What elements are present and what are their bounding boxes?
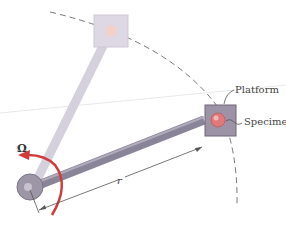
radius-label: r	[117, 175, 123, 186]
dimension-arrow-right-icon	[195, 147, 202, 152]
omega-label: Ω	[17, 142, 27, 155]
specimen	[211, 113, 225, 127]
platform-leader	[224, 90, 234, 104]
specimen-label: Specimen	[244, 116, 286, 127]
specimen-faded	[105, 25, 117, 37]
pivot-center	[24, 183, 32, 191]
dimension-arrow-left-icon	[39, 205, 46, 210]
platform-label: Platform	[235, 84, 279, 95]
centrifuge-diagram: Ω r Platform Specimen	[0, 0, 286, 227]
specimen-highlight	[214, 116, 219, 121]
dimension-line-right	[125, 147, 202, 177]
